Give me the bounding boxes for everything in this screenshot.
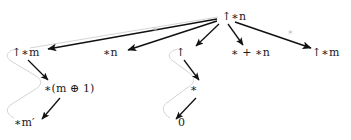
edge-label-right: ∗ [287,28,293,37]
edge-root-to-up-star-m [48,19,217,49]
graph-edges [0,0,351,140]
node-up-star-m2[interactable]: ↑∗m [312,47,339,58]
brace-group [7,17,218,118]
edge-up-to-star [184,60,199,80]
brace-left [7,49,40,118]
arrow-group [28,19,311,119]
node-star-n[interactable]: ∗n [103,47,118,58]
brace-top [30,17,218,48]
brace-middle [163,49,193,118]
edge-root-to-up-star-m2 [235,22,311,48]
edge-label-left: ∗ [152,25,158,34]
edge-star-paren-to-star-mp [42,98,60,119]
node-star-paren[interactable]: ∗(m ⊕ 1) [44,83,95,94]
edge-root-to-sum [228,24,243,45]
node-sum[interactable]: ∗ + ∗n [231,47,270,58]
node-zero[interactable]: 0 [178,117,185,128]
node-root[interactable]: ↑∗n [222,11,246,22]
node-star-m-prime[interactable]: ∗m′ [14,117,35,128]
figure-canvas: ↑∗n ↑∗m ∗n ↑ ∗ + ∗n ↑∗m ∗(m ⊕ 1) ∗ ∗m′ 0… [0,0,351,140]
node-up-star-m[interactable]: ↑∗m [12,47,39,58]
edge-root-to-star-n [128,21,217,50]
node-up[interactable]: ↑ [176,47,185,58]
node-star[interactable]: ∗ [190,83,198,94]
